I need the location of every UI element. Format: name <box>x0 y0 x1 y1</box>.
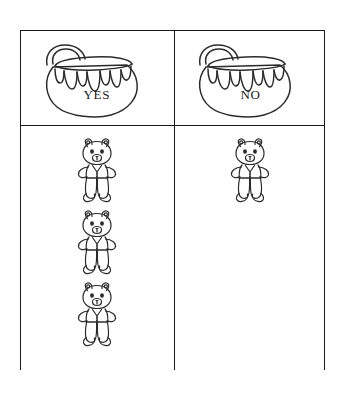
honey-pot-no: NO <box>188 35 312 121</box>
bear-icon <box>222 136 278 206</box>
bear-icon <box>69 208 125 278</box>
pictograph-page: { "chart_data": { "type": "bar", "orient… <box>0 0 347 394</box>
honey-pot-icon <box>188 35 312 121</box>
honey-pot-icon <box>35 35 159 121</box>
header-cell-yes: YES <box>20 30 174 125</box>
tally-column-yes <box>20 126 174 370</box>
bear-icon <box>69 136 125 206</box>
pictograph-chart: YES NO <box>20 30 325 370</box>
bear-icon <box>69 280 125 350</box>
header-cell-no: NO <box>174 30 328 125</box>
honey-pot-yes: YES <box>35 35 159 121</box>
tally-column-no <box>174 126 328 370</box>
